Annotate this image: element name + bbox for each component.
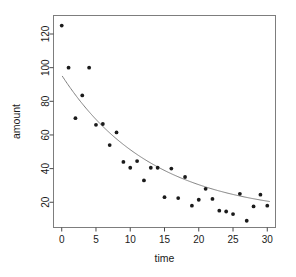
data-point: [149, 166, 153, 170]
x-tick-label: 15: [159, 234, 171, 245]
x-tick-label: 30: [262, 234, 274, 245]
data-point: [101, 122, 105, 126]
data-point: [259, 193, 263, 197]
scatter-plot-svg: 20406080100120 051015202530 time amount: [0, 0, 296, 277]
data-point: [204, 187, 208, 191]
data-point: [108, 143, 112, 147]
data-point: [142, 178, 146, 182]
data-point: [238, 192, 242, 196]
data-point: [217, 209, 221, 213]
x-tick-label: 10: [125, 234, 137, 245]
y-tick-label: 40: [40, 163, 51, 175]
y-tick-label: 120: [40, 25, 51, 42]
data-point: [176, 196, 180, 200]
data-point: [265, 204, 269, 208]
data-point: [197, 198, 201, 202]
x-tick-label: 5: [93, 234, 99, 245]
y-tick-label: 20: [40, 196, 51, 208]
x-tick-label: 25: [227, 234, 239, 245]
y-tick-label: 80: [40, 95, 51, 107]
data-point: [94, 123, 98, 127]
data-point: [190, 204, 194, 208]
data-point: [252, 205, 256, 209]
data-point: [224, 210, 228, 214]
data-point: [60, 24, 64, 28]
x-tick-label: 20: [193, 234, 205, 245]
data-point: [74, 116, 78, 120]
y-tick-label: 100: [40, 59, 51, 76]
data-point: [211, 197, 215, 201]
data-point: [183, 175, 187, 179]
data-point: [169, 167, 173, 171]
data-point: [67, 66, 71, 70]
data-point: [245, 219, 249, 223]
data-point: [135, 159, 139, 163]
data-point: [163, 195, 167, 199]
data-point: [121, 160, 125, 164]
data-point: [128, 166, 132, 170]
y-tick-label: 60: [40, 129, 51, 141]
data-point: [87, 66, 91, 70]
plot-container: 20406080100120 051015202530 time amount: [0, 0, 296, 277]
y-axis-label: amount: [10, 104, 22, 139]
data-point: [156, 166, 160, 170]
data-point: [80, 94, 84, 98]
x-axis-label: time: [155, 252, 175, 264]
data-point: [115, 131, 119, 135]
data-point: [231, 212, 235, 216]
x-tick-label: 0: [59, 234, 65, 245]
